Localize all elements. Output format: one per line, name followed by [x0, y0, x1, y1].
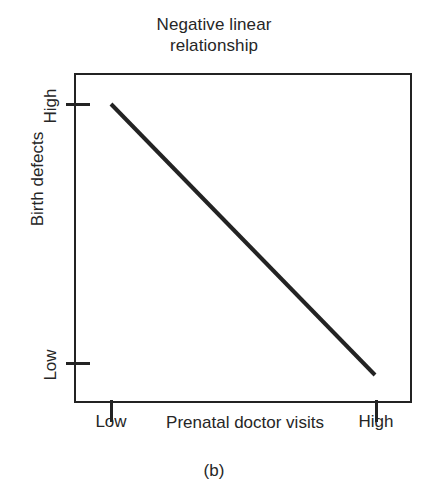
x-axis-title: Prenatal doctor visits — [140, 413, 350, 433]
y-tick-label-low: Low — [41, 340, 61, 390]
x-tick-label-high: High — [345, 412, 407, 432]
trend-line — [111, 104, 375, 375]
y-axis-title: Birth defects — [27, 104, 49, 254]
x-tick-label-low: Low — [81, 412, 141, 432]
figure-panel-b: Negative linear relationship High Low Lo… — [0, 0, 428, 502]
figure-caption: (b) — [0, 461, 428, 481]
y-tick-high — [66, 103, 90, 106]
chart-title: Negative linear relationship — [0, 14, 428, 56]
plot-area — [74, 73, 412, 403]
y-tick-low — [66, 362, 90, 365]
